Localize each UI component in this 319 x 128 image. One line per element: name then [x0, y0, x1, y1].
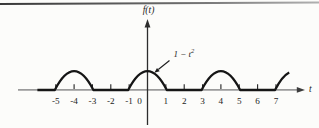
- annotation-base: 1 − t: [174, 49, 192, 59]
- tick-label: -3: [89, 96, 97, 106]
- tick-label: 3: [200, 96, 205, 106]
- tick-label: 5: [237, 96, 242, 106]
- annotation-arrow-line: [158, 61, 169, 70]
- tick-label: 2: [182, 96, 187, 106]
- tick-label: 6: [255, 96, 260, 106]
- axis-tick-labels: -5-4-3-2-101234567: [52, 96, 279, 106]
- t-axis-arrowhead-icon: [297, 87, 305, 93]
- tick-label: -5: [52, 96, 60, 106]
- tick-label: 1: [164, 96, 169, 106]
- f-axis-label: f(t): [143, 5, 155, 16]
- f-axis-arrowhead-icon: [145, 19, 151, 28]
- function-curve: [37, 71, 289, 90]
- tick-label: 4: [219, 96, 224, 106]
- annotation-text: 1 − t2: [174, 47, 196, 59]
- tick-label: 0: [137, 96, 142, 106]
- tick-label: 7: [274, 96, 279, 106]
- tick-label: -1: [125, 96, 133, 106]
- tick-label: -4: [70, 96, 78, 106]
- annotation-superscript: 2: [191, 47, 195, 54]
- textbook-figure: t f(t) -5-4-3-2-101234567 1 − t2: [0, 0, 319, 128]
- top-rule-line: [0, 3, 319, 5]
- t-axis-label: t: [309, 84, 312, 94]
- tick-label: -2: [107, 96, 115, 106]
- function-plot: t f(t) -5-4-3-2-101234567 1 − t2: [0, 0, 319, 128]
